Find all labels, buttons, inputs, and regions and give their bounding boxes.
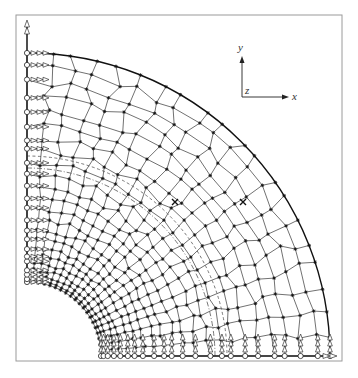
mesh-node	[179, 93, 183, 97]
force-arrow-y-icon	[220, 346, 225, 352]
mesh-node	[228, 146, 232, 150]
mesh-node	[69, 294, 73, 298]
mesh-node	[261, 295, 265, 299]
mesh-node	[97, 302, 101, 306]
mesh-node	[269, 333, 273, 337]
mesh-node	[100, 300, 104, 304]
mesh-node	[123, 330, 127, 334]
mesh-node	[98, 123, 102, 127]
mesh-node	[115, 279, 119, 283]
mesh-node	[99, 309, 103, 313]
roller-support-icon	[118, 353, 123, 358]
mesh-node	[113, 290, 117, 294]
mesh-node	[78, 140, 82, 144]
force-arrow-x-icon	[37, 125, 43, 130]
mesh-node	[119, 296, 123, 300]
mesh-node	[57, 258, 61, 262]
mesh-node	[59, 273, 63, 277]
mesh-node	[94, 319, 98, 323]
mesh-node	[244, 239, 248, 243]
mesh-node	[110, 319, 114, 323]
mesh-node	[136, 318, 140, 322]
force-arrow-x-icon	[31, 254, 37, 259]
mesh-node	[91, 224, 95, 228]
force-arrow-x-icon	[31, 96, 37, 101]
mesh-node	[279, 244, 283, 248]
mesh-node	[284, 270, 288, 274]
roller-support-icon	[180, 353, 185, 358]
force-arrow-y-icon	[229, 346, 234, 352]
mesh-node	[166, 283, 170, 287]
mesh-node	[109, 334, 113, 338]
mesh-node	[96, 272, 100, 276]
mesh-node	[168, 265, 172, 269]
mesh-node	[107, 259, 111, 263]
mesh-node	[108, 272, 112, 276]
roller-support-icon	[105, 353, 110, 358]
mesh-node	[257, 277, 261, 281]
mesh-node	[192, 314, 196, 318]
mesh-node	[88, 267, 92, 271]
mesh-node	[171, 320, 175, 324]
roller-support-icon	[219, 353, 224, 358]
mesh-node	[122, 242, 126, 246]
roller-support-icon	[24, 183, 29, 188]
mesh-node	[112, 301, 116, 305]
mesh-node	[74, 274, 78, 278]
mesh-node	[115, 249, 119, 253]
mesh-node	[65, 289, 69, 293]
mesh-node	[50, 85, 54, 89]
mesh-node	[134, 243, 138, 247]
mesh-node	[54, 267, 58, 271]
mesh-node	[138, 258, 142, 262]
mesh-node	[209, 260, 213, 264]
mesh-node	[75, 257, 79, 261]
mesh-node	[177, 276, 181, 280]
mesh-node	[49, 257, 53, 261]
force-arrow-x-icon	[31, 206, 37, 211]
mesh-node	[298, 314, 302, 318]
mesh-node	[122, 323, 126, 327]
force-arrow-x-icon	[31, 51, 37, 56]
force-arrow-x-icon	[43, 161, 49, 166]
mesh-node	[59, 154, 63, 158]
mesh-node	[83, 170, 87, 174]
mesh-node	[52, 271, 56, 275]
mesh-node	[284, 224, 288, 228]
mesh-node	[175, 305, 179, 309]
mesh-node	[162, 218, 166, 222]
roller-support-icon	[24, 160, 29, 165]
mesh-node	[165, 167, 169, 171]
mesh-node	[296, 218, 300, 222]
mesh-node	[53, 187, 57, 191]
mesh-node	[111, 150, 115, 154]
mesh-node	[51, 64, 55, 68]
mesh-node	[122, 284, 126, 288]
force-arrow-y-icon	[208, 340, 213, 346]
mesh-node	[92, 288, 96, 292]
mesh-node	[78, 229, 82, 233]
mesh-node	[253, 263, 257, 267]
mesh-node	[86, 209, 90, 213]
mesh-node	[82, 119, 86, 123]
mesh-node	[118, 85, 122, 89]
mesh-node	[73, 289, 77, 293]
mesh-circumferential-line	[27, 110, 275, 356]
force-arrow-x-icon	[31, 138, 37, 143]
force-arrow-x-icon	[43, 171, 49, 176]
mesh-node	[87, 309, 91, 313]
mesh-node	[60, 211, 64, 215]
roller-support-icon	[24, 138, 29, 143]
mesh-node	[63, 261, 67, 265]
roller-support-icon	[243, 353, 248, 358]
mesh-node	[83, 305, 87, 309]
mesh-node	[307, 244, 311, 248]
mesh-node	[117, 209, 121, 213]
mesh-node	[101, 230, 105, 234]
mesh-node	[62, 282, 66, 286]
mesh-node	[145, 157, 149, 161]
force-arrow-x-icon	[31, 77, 37, 82]
mesh-node	[103, 288, 107, 292]
force-arrow-x-icon	[43, 259, 49, 264]
mesh-node	[113, 265, 117, 269]
